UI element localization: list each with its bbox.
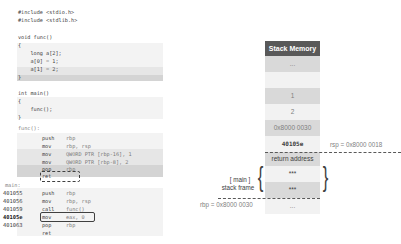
right-brace-icon: } — [323, 163, 329, 191]
asm-arg: rbp — [66, 134, 75, 142]
code-line: #include <stdio.h> — [18, 8, 74, 16]
asm-arg: rbp — [66, 221, 75, 229]
code-line: func(); — [18, 105, 52, 113]
asm-address-current: 40105e — [3, 213, 39, 221]
stack-cell — [265, 72, 320, 88]
stack-cell: ... — [265, 56, 320, 72]
code-line: int main() — [18, 89, 49, 97]
code-line: a[1] = 2; — [18, 65, 59, 73]
asm-arg: rbp, rsp — [66, 197, 91, 205]
rbp-line — [218, 198, 320, 199]
main-label: main: — [5, 181, 21, 189]
func-label: func(): — [18, 124, 40, 132]
ret-highlight-box — [40, 171, 80, 182]
code-line: void func() — [18, 33, 52, 41]
stack-cell: ... — [265, 198, 320, 214]
code-line: #include <stdlib.h> — [18, 16, 77, 24]
asm-op: push — [42, 134, 55, 142]
asm-arg: rbp — [66, 189, 75, 197]
frame-label-main: [ main ] — [222, 176, 258, 184]
stack-cell: 2 — [265, 104, 320, 120]
asm-op: ret — [42, 229, 51, 237]
rsp-line — [265, 152, 401, 153]
asm-op: mov — [42, 150, 51, 158]
asm-op: mov — [42, 197, 51, 205]
code-line: } — [18, 113, 21, 121]
asm-address: 401056 — [3, 197, 39, 205]
stack-cell-return-address: return address — [265, 152, 320, 166]
code-line: } — [18, 73, 21, 81]
asm-address: 401063 — [3, 221, 39, 229]
asm-arg: QWORD PTR [rbp-16], 1 — [66, 150, 132, 158]
asm-op: pop — [42, 221, 51, 229]
asm-arg: rbp, rsp — [66, 142, 91, 150]
stack-cell: *** — [265, 182, 320, 198]
left-brace-icon: { — [258, 163, 264, 191]
rbp-label: rbp = 0x8000 0030 — [200, 201, 253, 208]
code-line: a[0] = 1; — [18, 57, 59, 65]
code-line: { — [18, 41, 21, 49]
stack-cell: *** — [265, 166, 320, 182]
code-line: long a[2]; — [18, 49, 62, 57]
frame-label-stack: stack frame — [218, 184, 258, 192]
asm-address: 401059 — [3, 205, 39, 213]
asm-band — [17, 165, 163, 177]
asm-op: push — [42, 189, 55, 197]
stack-title: Stack Memory — [265, 41, 320, 56]
code-line: { — [18, 97, 21, 105]
asm-op: mov — [42, 142, 51, 150]
rsp-label: rsp = 0x8000 0018 — [330, 141, 382, 148]
asm-address: 401055 — [3, 189, 39, 197]
code-band — [17, 75, 163, 81]
stack-cell-return-value: 40105e — [265, 136, 320, 152]
stack-cell: 1 — [265, 88, 320, 104]
stack-cell: 0x8000 0030 — [265, 120, 320, 136]
